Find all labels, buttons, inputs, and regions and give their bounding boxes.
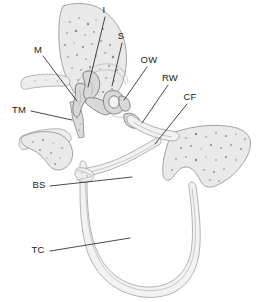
label-RW: RW [162, 72, 178, 83]
label-M: M [34, 44, 42, 55]
leader-TM [31, 111, 72, 120]
stapes-obturator-foramen [109, 96, 119, 108]
stapes-footplate [119, 96, 130, 111]
cochlear-tube-loop [80, 161, 200, 297]
leader-RW [142, 85, 168, 123]
label-CF: CF [183, 91, 196, 102]
label-TM: TM [12, 104, 26, 115]
left-bony-spur [21, 132, 73, 171]
cochlear-fenestra-bridge [127, 115, 179, 141]
label-BS: BS [32, 179, 45, 190]
label-I: I [103, 4, 106, 15]
label-TC: TC [31, 244, 44, 255]
ear-anatomy-figure: I S M OW RW CF TM BS TC [0, 0, 257, 302]
label-S: S [118, 30, 125, 41]
vestibular-tube-branch [82, 138, 161, 176]
leader-OW [124, 67, 147, 100]
label-OW: OW [141, 54, 158, 65]
anatomy-diagram: I S M OW RW CF TM BS TC [0, 0, 257, 302]
